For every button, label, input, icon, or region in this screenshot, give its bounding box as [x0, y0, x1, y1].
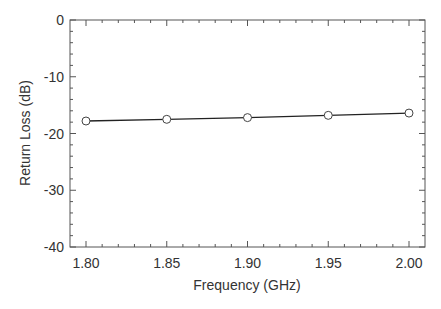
y-tick-label: -40	[44, 239, 64, 255]
y-tick-label: -30	[44, 182, 64, 198]
return-loss-chart: 0-10-20-30-40 1.801.851.901.952.00 Frequ…	[0, 0, 441, 309]
data-point-marker	[405, 109, 413, 117]
x-tick-label: 2.00	[395, 255, 422, 271]
data-series	[82, 109, 413, 125]
y-tick-label: -10	[44, 69, 64, 85]
plot-frame	[70, 20, 425, 247]
x-tick-label: 1.90	[234, 255, 261, 271]
x-tick-label: 1.95	[315, 255, 342, 271]
data-point-marker	[324, 111, 332, 119]
x-tick-label: 1.80	[72, 255, 99, 271]
x-tick-label: 1.85	[153, 255, 180, 271]
x-axis-label: Frequency (GHz)	[193, 277, 300, 293]
data-point-marker	[244, 114, 252, 122]
y-tick-label: 0	[56, 12, 64, 28]
y-tick-label: -20	[44, 126, 64, 142]
x-axis-ticks: 1.801.851.901.952.00	[72, 20, 422, 271]
data-point-marker	[163, 115, 171, 123]
y-axis-label: Return Loss (dB)	[17, 80, 33, 186]
y-axis-ticks: 0-10-20-30-40	[44, 12, 425, 255]
data-point-marker	[82, 117, 90, 125]
